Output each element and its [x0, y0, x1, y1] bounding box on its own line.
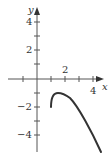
x-tick-label-4: 4 [90, 85, 96, 96]
y-tick-label-4: 4 [26, 16, 32, 27]
function-graph: 2 4 x y 4 2 −2 −4 [0, 0, 112, 154]
y-tick-label-2: 2 [26, 44, 32, 55]
function-curve [51, 93, 101, 152]
y-axis-arrow-icon [34, 7, 40, 15]
y-axis-label: y [27, 4, 34, 15]
y-tick-label-neg4: −4 [17, 129, 32, 140]
x-tick-label-2: 2 [62, 64, 68, 75]
x-axis-label: x [102, 81, 108, 92]
y-tick-label-neg2: −2 [17, 101, 32, 112]
